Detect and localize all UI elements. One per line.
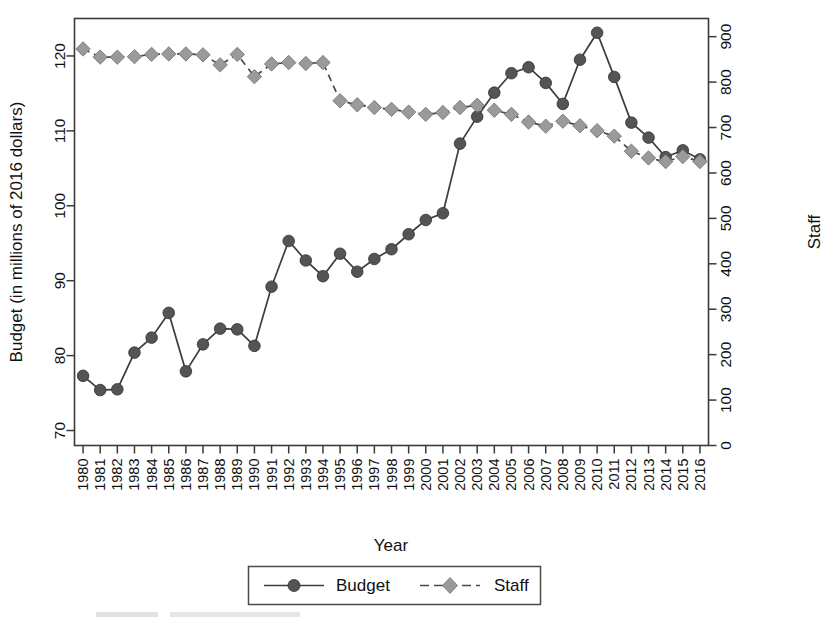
x-axis-tick-label: 2003 (469, 459, 485, 491)
data-point-budget (626, 117, 638, 129)
data-point-budget (197, 339, 209, 351)
y-axis-right-tick-label: 400 (717, 250, 734, 276)
y-axis-left-tick-label: 120 (51, 43, 68, 69)
x-axis-tick-label: 1995 (332, 459, 348, 491)
data-point-budget (351, 266, 363, 278)
x-axis-tick-label: 1983 (126, 459, 142, 491)
x-axis-tick-label: 1989 (229, 459, 245, 491)
y-axis-left-tick-label: 70 (51, 422, 68, 440)
x-axis-tick-label: 2007 (538, 459, 554, 491)
data-point-budget (112, 384, 124, 396)
x-axis-tick-label: 1981 (92, 459, 108, 491)
data-point-budget (334, 248, 346, 260)
data-point-budget (574, 54, 586, 66)
x-axis-tick-label: 1994 (315, 459, 331, 491)
data-point-budget (146, 332, 158, 344)
y-axis-left-tick-label: 110 (51, 118, 68, 143)
x-axis-tick-label: 1980 (75, 459, 91, 491)
x-axis-tick-label: 2001 (435, 459, 451, 491)
x-axis-tick-label: 2015 (675, 459, 691, 491)
data-point-budget (129, 347, 141, 359)
x-axis-tick-label: 1993 (298, 459, 314, 491)
x-axis-tick-label: 1984 (144, 459, 160, 491)
chart-legend: Budget Staff (249, 567, 541, 605)
y-axis-right-tick-label: 600 (717, 160, 734, 186)
x-axis-tick-label: 1990 (246, 459, 262, 491)
data-point-budget (591, 27, 603, 39)
y-axis-left-title: Budget (in millions of 2016 dollars) (7, 102, 26, 363)
y-axis-left-tick-label: 100 (51, 192, 68, 218)
data-point-budget (77, 370, 89, 382)
x-axis-tick-label: 2016 (692, 459, 708, 491)
x-axis-tick-label: 2006 (521, 459, 537, 491)
x-axis-tick-label: 1996 (349, 459, 365, 491)
data-point-budget (214, 323, 226, 335)
data-point-budget (386, 243, 398, 255)
x-axis-tick-label: 1982 (109, 459, 125, 491)
data-point-budget (420, 214, 432, 226)
data-point-budget (266, 281, 278, 293)
data-point-budget (231, 324, 243, 336)
data-point-budget (180, 366, 192, 378)
data-point-budget (369, 253, 381, 265)
data-point-budget (523, 61, 535, 73)
legend-label-staff: Staff (494, 576, 529, 595)
page-caption-remnant (96, 612, 300, 617)
x-axis-tick-label: 1997 (366, 459, 382, 491)
y-axis-right-tick-label: 300 (717, 296, 734, 322)
x-axis-tick-label: 1985 (161, 459, 177, 491)
data-point-budget (454, 138, 466, 150)
y-axis-right-tick-label: 700 (717, 114, 734, 140)
data-point-budget (437, 207, 449, 219)
y-axis-right-title: Staff (805, 214, 824, 249)
x-axis-title: Year (374, 536, 409, 555)
x-axis-tick-label: 2008 (555, 459, 571, 491)
x-axis-tick-label: 2013 (641, 459, 657, 491)
data-point-budget (300, 255, 312, 267)
x-axis-tick-label: 2002 (452, 459, 468, 491)
legend-label-budget: Budget (336, 576, 390, 595)
chart-figure: 708090100110120 010020030040050060070080… (0, 0, 836, 624)
data-point-budget (608, 71, 620, 83)
y-axis-right-tick-label: 100 (717, 387, 734, 413)
data-point-budget (643, 132, 655, 144)
x-axis-tick-label: 2010 (589, 459, 605, 491)
y-axis-left-tick-label: 80 (51, 347, 68, 365)
x-axis-tick-label: 2004 (486, 459, 502, 491)
dual-axis-line-chart: 708090100110120 010020030040050060070080… (0, 0, 836, 624)
data-point-budget (283, 235, 295, 247)
x-axis-tick-label: 2014 (658, 459, 674, 491)
x-axis-tick-label: 1987 (195, 459, 211, 491)
x-axis-tick-label: 2005 (503, 459, 519, 491)
data-point-budget (540, 77, 552, 89)
x-axis-tick-label: 1992 (281, 459, 297, 491)
x-axis-tick-label: 2011 (606, 459, 622, 490)
data-point-budget (317, 270, 329, 282)
data-point-budget (506, 67, 518, 79)
y-axis-left-tick-label: 90 (51, 272, 68, 290)
data-point-budget (94, 384, 106, 396)
y-axis-right-tick-label: 500 (717, 205, 734, 231)
legend-marker-budget (288, 580, 300, 592)
data-point-budget (489, 87, 501, 99)
y-axis-right-tick-label: 900 (717, 23, 734, 49)
x-axis-tick-label: 1988 (212, 459, 228, 491)
x-axis-tick-label: 2012 (623, 459, 639, 491)
x-axis-tick-label: 1986 (178, 459, 194, 491)
x-axis-tick-label: 1999 (401, 459, 417, 491)
y-axis-right-tick-label: 0 (717, 441, 734, 450)
y-axis-right-tick-label: 800 (717, 69, 734, 95)
chart-background (0, 0, 836, 624)
x-axis-tick-label: 2009 (572, 459, 588, 491)
data-point-budget (163, 307, 175, 319)
x-axis-tick-label: 1991 (264, 459, 280, 491)
x-axis-tick-label: 2000 (418, 459, 434, 491)
x-axis-tick-label: 1998 (384, 459, 400, 491)
y-axis-right-tick-label: 200 (717, 341, 734, 367)
data-point-budget (557, 98, 569, 110)
data-point-budget (403, 228, 415, 240)
data-point-budget (249, 340, 261, 352)
x-axis-tick-labels: 1980198119821983198419851986198719881989… (75, 459, 708, 491)
